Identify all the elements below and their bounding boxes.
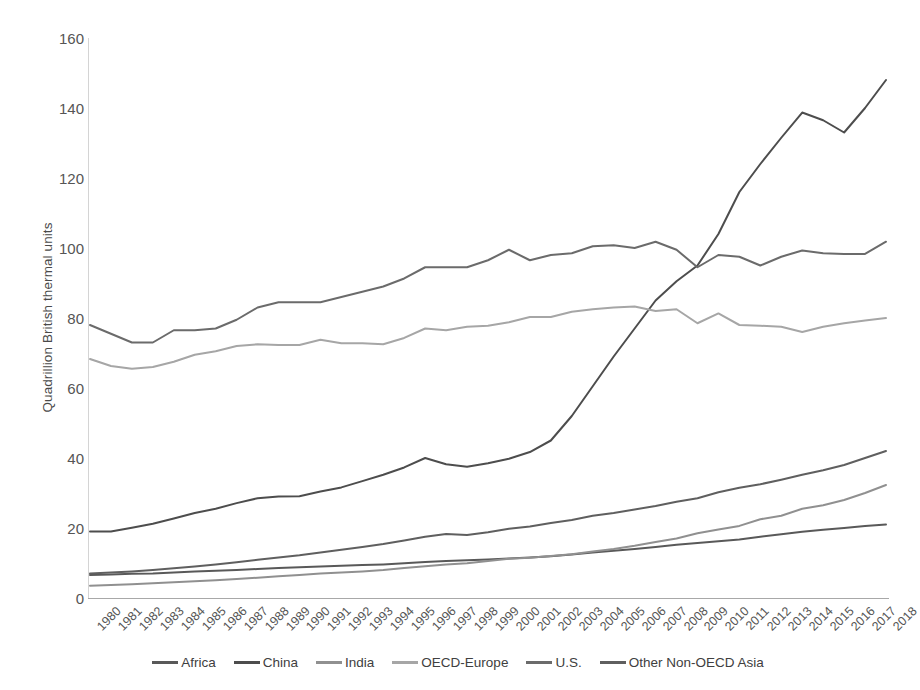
legend-label: U.S. [555,655,581,670]
x-tick-label: 2018 [890,604,920,634]
x-axis-tick-labels: 1980198119821983198419851986198719881989… [88,600,888,650]
x-axis-line [88,598,889,599]
legend-item-u-s[interactable]: U.S. [526,655,581,670]
legend-label: Other Non-OECD Asia [629,655,764,670]
series-line-china [90,80,886,532]
legend-swatch-icon [152,661,178,664]
y-tick-label: 20 [40,520,84,537]
legend-swatch-icon [392,661,418,664]
legend-swatch-icon [234,661,260,664]
legend-swatch-icon [316,661,342,664]
y-axis-tick-labels: 020406080100120140160 [40,0,84,690]
chart-legend: AfricaChinaIndiaOECD-EuropeU.S.Other Non… [0,655,916,670]
plot-area [88,38,888,598]
series-line-other-non-oecd-asia [90,451,886,574]
y-tick-label: 160 [40,30,84,47]
series-line-oecd-europe [90,306,886,368]
y-tick-label: 0 [40,590,84,607]
series-line-u-s [90,242,886,343]
y-tick-label: 80 [40,310,84,327]
legend-item-china[interactable]: China [234,655,298,670]
y-tick-label: 140 [40,100,84,117]
y-tick-label: 40 [40,450,84,467]
legend-label: Africa [181,655,216,670]
legend-swatch-icon [600,661,626,664]
legend-item-other-non-oecd-asia[interactable]: Other Non-OECD Asia [600,655,764,670]
y-tick-label: 120 [40,170,84,187]
y-tick-label: 60 [40,380,84,397]
series-lines [88,38,888,598]
legend-item-oecd-europe[interactable]: OECD-Europe [392,655,508,670]
legend-label: China [263,655,298,670]
y-tick-label: 100 [40,240,84,257]
legend-swatch-icon [526,661,552,664]
legend-item-india[interactable]: India [316,655,374,670]
legend-item-africa[interactable]: Africa [152,655,216,670]
legend-label: India [345,655,374,670]
legend-label: OECD-Europe [421,655,508,670]
